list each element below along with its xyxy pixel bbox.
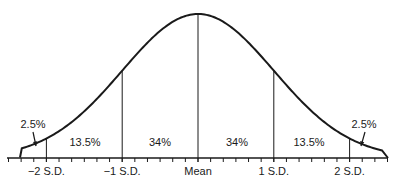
region-label: 13.5% — [293, 136, 324, 148]
region-label: 34% — [149, 136, 171, 148]
region-label: 2.5% — [351, 118, 376, 130]
tick-label: −2 S.D. — [28, 165, 65, 177]
tick-label: 2 S.D. — [334, 165, 365, 177]
normal-distribution-chart: −2 S.D.−1 S.D.Mean1 S.D.2 S.D.2.5%13.5%3… — [0, 0, 394, 185]
tick-label: 1 S.D. — [259, 165, 290, 177]
tick-label: Mean — [184, 165, 212, 177]
region-label: 2.5% — [20, 118, 45, 130]
tick-label: −1 S.D. — [104, 165, 141, 177]
region-label: 13.5% — [69, 136, 100, 148]
region-label: 34% — [226, 136, 248, 148]
